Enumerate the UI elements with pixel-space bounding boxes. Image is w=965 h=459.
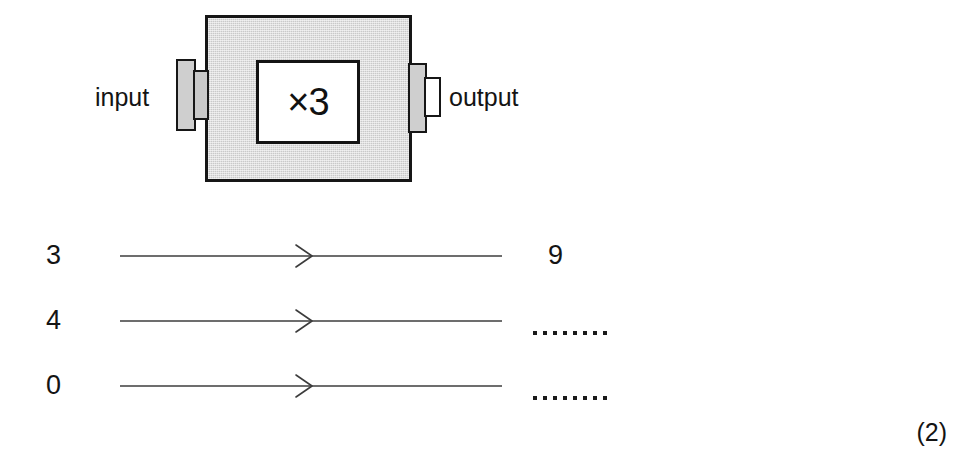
marks-allocation: (2) (916, 420, 947, 445)
mapping-row: 4 (0, 301, 965, 359)
rightwards-arrow-icon (120, 307, 502, 335)
row-input-value: 0 (46, 366, 86, 404)
output-label: output (449, 85, 519, 110)
row-input-value: 3 (46, 236, 86, 274)
mapping-row: 0 (0, 366, 965, 424)
blank-dot (573, 396, 577, 400)
blank-dot (533, 331, 537, 335)
blank-dot (563, 396, 567, 400)
operation-label: ×3 (287, 83, 328, 121)
row-output-blank[interactable] (533, 323, 653, 343)
blank-dot (603, 331, 607, 335)
row-output-blank[interactable] (533, 388, 653, 408)
blank-dot (573, 331, 577, 335)
function-machine-diagram: ×3 input output (0, 0, 600, 205)
output-connector-nub (424, 77, 441, 117)
blank-dot (583, 396, 587, 400)
blank-dot (543, 396, 547, 400)
blank-dot (553, 331, 557, 335)
blank-dot (583, 331, 587, 335)
blank-dot (543, 331, 547, 335)
blank-dot (603, 396, 607, 400)
blank-dot (533, 396, 537, 400)
row-input-value: 4 (46, 301, 86, 339)
mapping-row: 3 9 (0, 236, 965, 294)
blank-dot (593, 331, 597, 335)
operation-box: ×3 (256, 60, 360, 144)
blank-dot (563, 331, 567, 335)
blank-dot (593, 396, 597, 400)
input-connector-neck (193, 70, 209, 120)
blank-dot (553, 396, 557, 400)
input-label: input (95, 85, 149, 110)
row-output-value: 9 (548, 236, 668, 274)
rightwards-arrow-icon (120, 372, 502, 400)
mapping-rows: 3 9 4 0 (0, 222, 965, 437)
rightwards-arrow-icon (120, 242, 502, 270)
